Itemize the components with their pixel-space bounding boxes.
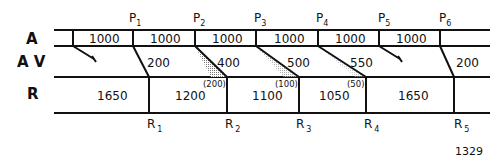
svg-text:1650: 1650 bbox=[97, 89, 128, 103]
row-label-r: R bbox=[27, 85, 39, 103]
svg-text:1000: 1000 bbox=[274, 32, 305, 46]
blocked-flow-2 bbox=[379, 46, 400, 59]
p-marker-4: P4 bbox=[316, 11, 328, 28]
r-marker-5: R5 bbox=[454, 117, 469, 134]
row-label-av: A V bbox=[17, 53, 46, 71]
svg-text:200: 200 bbox=[456, 56, 479, 70]
svg-text:(200): (200) bbox=[203, 79, 226, 89]
svg-text:1000: 1000 bbox=[150, 32, 181, 46]
r-marker-4: R4 bbox=[364, 117, 379, 134]
p-markers: P1 P2 P3 P4 P5 P6 bbox=[129, 11, 451, 28]
svg-text:400: 400 bbox=[217, 56, 240, 70]
svg-text:(50): (50) bbox=[347, 79, 364, 89]
svg-text:1000: 1000 bbox=[396, 32, 427, 46]
svg-text:200: 200 bbox=[147, 56, 170, 70]
p-marker-3: P3 bbox=[254, 11, 266, 28]
p-marker-6: P6 bbox=[439, 11, 451, 28]
svg-text:(100): (100) bbox=[275, 79, 298, 89]
p-marker-5: P5 bbox=[378, 11, 390, 28]
svg-text:1050: 1050 bbox=[319, 89, 350, 103]
figure-number: 1329 bbox=[455, 145, 483, 158]
svg-text:1650: 1650 bbox=[398, 89, 429, 103]
row-label-a: A bbox=[26, 30, 38, 48]
svg-text:1000: 1000 bbox=[335, 32, 366, 46]
svg-text:550: 550 bbox=[350, 56, 373, 70]
svg-text:1100: 1100 bbox=[252, 89, 283, 103]
r-values: 1650 1200 1100 1050 1650 bbox=[97, 89, 429, 103]
r-marker-3: R3 bbox=[296, 117, 311, 134]
svg-text:500: 500 bbox=[287, 56, 310, 70]
blocked-flow-1 bbox=[73, 46, 94, 59]
p-marker-2: P2 bbox=[193, 11, 205, 28]
flow-diagram: A A V R bbox=[0, 0, 492, 164]
r-marker-1: R1 bbox=[147, 117, 162, 134]
svg-text:1200: 1200 bbox=[175, 89, 206, 103]
a-values: 1000 1000 1000 1000 1000 1000 bbox=[89, 32, 427, 46]
p-marker-1: P1 bbox=[129, 11, 141, 28]
r-markers: R1 R2 R3 R4 R5 bbox=[147, 117, 469, 134]
av-values: 200 400 500 550 200 bbox=[147, 56, 479, 70]
r-marker-2: R2 bbox=[225, 117, 240, 134]
a-row-dividers bbox=[73, 30, 440, 46]
svg-text:1000: 1000 bbox=[212, 32, 243, 46]
svg-text:1000: 1000 bbox=[89, 32, 120, 46]
av-flow-lines bbox=[73, 46, 454, 77]
